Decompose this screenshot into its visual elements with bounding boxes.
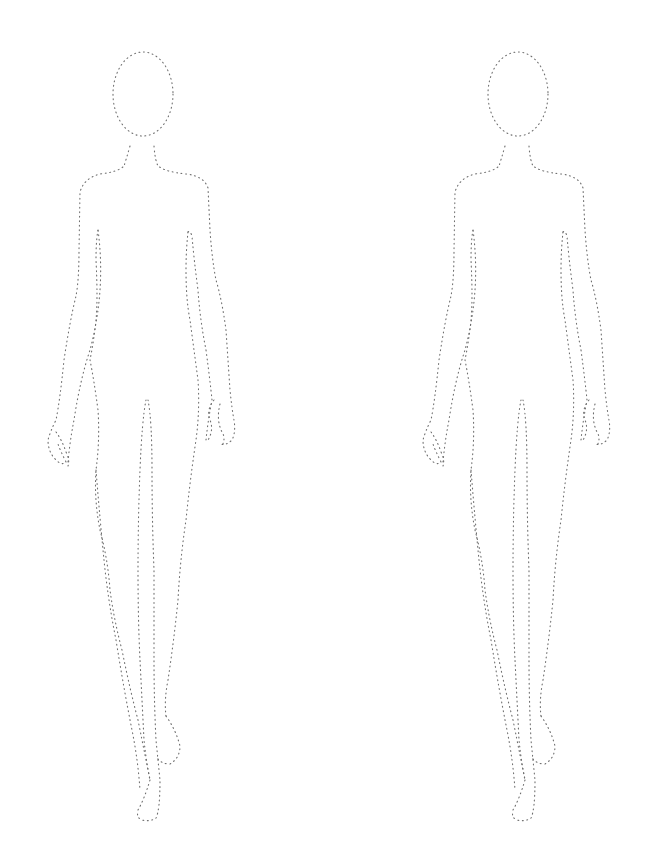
figure-left	[48, 52, 235, 821]
figure-right	[423, 52, 610, 821]
croquis-canvas	[0, 0, 648, 864]
